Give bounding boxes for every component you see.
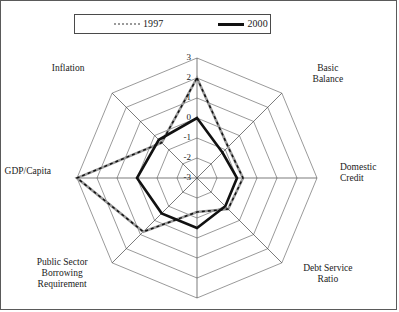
axis-label-gdp-capita: GDP/Capita [0, 166, 51, 177]
line-swatch-icon [114, 23, 140, 25]
tick-label-neg1: -1 [169, 133, 191, 142]
series-polygon-1997 [77, 78, 243, 232]
tick-label-3: 3 [169, 53, 191, 62]
series-layer [77, 78, 243, 232]
axis-label-inflation: Inflation [35, 63, 101, 74]
axis-label-debt-service-ratio: Debt Service Ratio [288, 263, 368, 285]
tick-label-neg3: -3 [169, 173, 191, 182]
series-polygon-1997-base [77, 78, 243, 232]
axis-label-basic-balance: Basic Balance [293, 63, 363, 85]
legend-label-1997: 1997 [143, 19, 163, 29]
chart-legend: 1997 2000 [74, 14, 271, 34]
axis-spoke [197, 178, 282, 263]
axis-label-public-sector-borrowing-requirement: Public Sector Borrowing Requirement [14, 257, 110, 290]
legend-entry-2000: 2000 [218, 19, 267, 29]
axis-spokes [77, 58, 317, 298]
axis-label-domestic-credit: Domestic Credit [340, 162, 397, 184]
tick-label-1: 1 [169, 93, 191, 102]
legend-entry-1997: 1997 [114, 19, 163, 29]
tick-label-0: 0 [169, 113, 191, 122]
legend-label-2000: 2000 [247, 19, 267, 29]
tick-label-2: 2 [169, 73, 191, 82]
axis-spoke [112, 178, 197, 263]
tick-label-neg2: -2 [169, 153, 191, 162]
radar-chart-figure: 1997 2000 Refinancing RiskBasic BalanceD… [0, 0, 397, 310]
line-swatch-icon [218, 23, 244, 26]
